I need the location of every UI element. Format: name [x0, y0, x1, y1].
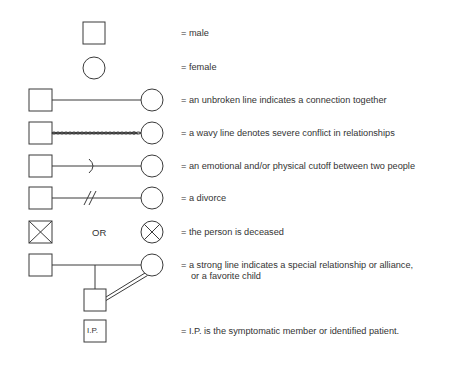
legend-label-female: = female: [181, 62, 217, 73]
legend-label-deceased: = the person is deceased: [181, 227, 284, 238]
legend-label-divorce: = a divorce: [181, 193, 226, 204]
or-separator: OR: [92, 227, 106, 238]
genogram-legend-symbols: [0, 0, 451, 367]
legend-label-strong-line-1: = a strong line indicates a special rela…: [181, 260, 413, 270]
legend-label-wavy-line: = a wavy line denotes severe conflict in…: [181, 128, 395, 139]
female-circle-icon: [83, 57, 105, 79]
identified-patient-box-label: I.P.: [87, 326, 98, 335]
wavy-conflict-line-icon: [29, 122, 163, 144]
deceased-male-icon: [29, 221, 52, 243]
legend-label-cutoff: = an emotional and/or physical cutoff be…: [181, 161, 415, 172]
divorce-line-icon: [29, 187, 163, 209]
legend-label-strong-line-2: or a favorite child: [181, 271, 446, 282]
strong-alliance-line-icon: [29, 254, 163, 311]
legend-label-strong-line: = a strong line indicates a special rela…: [181, 260, 446, 282]
legend-label-identified-patient: = I.P. is the symptomatic member or iden…: [181, 326, 399, 337]
deceased-female-icon: [141, 221, 163, 243]
legend-label-unbroken-line: = an unbroken line indicates a connectio…: [181, 95, 387, 106]
cutoff-line-icon: [29, 155, 163, 177]
male-square-icon: [83, 22, 105, 44]
unbroken-line-icon: [29, 89, 163, 111]
legend-label-male: = male: [181, 28, 209, 39]
